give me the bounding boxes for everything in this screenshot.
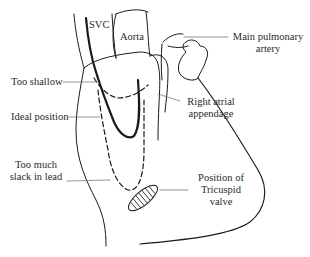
aorta-label: Aorta [120, 31, 144, 43]
svc-label: SVC [89, 19, 109, 31]
too-shallow-label: Too shallow [11, 76, 62, 88]
aorta-top [116, 10, 148, 14]
tricuspid-valve [125, 181, 162, 215]
right-atrium-top [84, 52, 160, 140]
pulmonary-artery-label: Main pulmonary artery [228, 31, 308, 55]
ideal-position-label: Ideal position [11, 111, 68, 123]
pulmonary-artery-left [161, 44, 162, 80]
pulmonary-artery-rim [163, 34, 183, 42]
aorta-right-wall [146, 12, 150, 56]
appendage-label: Right atrial appendage [176, 96, 246, 120]
appendage-bulb [178, 40, 207, 80]
tricuspid-valve-label: Position of Tricuspid valve [186, 172, 256, 208]
lead-slack-left [98, 90, 144, 190]
slack-label: Too much slack in lead [4, 159, 68, 183]
pulmonary-artery-inner [168, 46, 188, 48]
leader-slack [67, 180, 110, 181]
